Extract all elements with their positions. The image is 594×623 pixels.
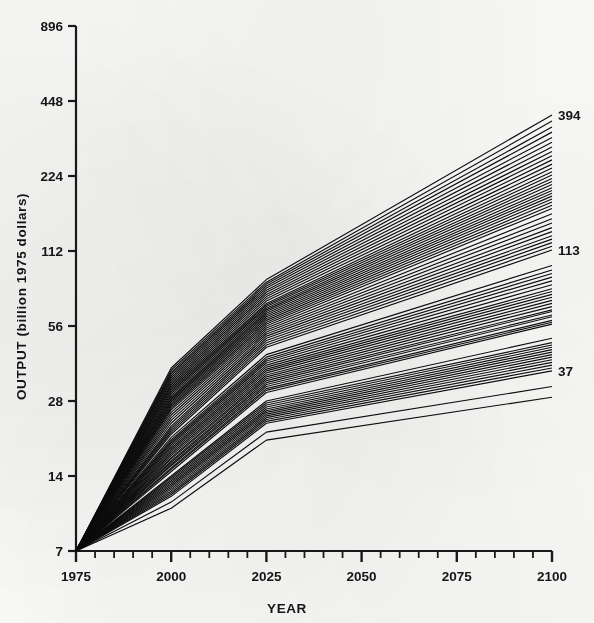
y-tick-label: 896 <box>40 19 63 34</box>
y-axis-ticks: 7142856112224448896 <box>40 19 76 559</box>
x-axis-ticks: 197520002025205020752100 <box>61 551 567 584</box>
y-tick-label: 56 <box>48 319 64 334</box>
x-tick-label: 2000 <box>156 569 186 584</box>
x-tick-label: 2075 <box>442 569 473 584</box>
y-tick-label: 28 <box>48 394 64 409</box>
endpoint-annotations: 39411337 <box>558 108 581 379</box>
y-tick-label: 7 <box>55 544 63 559</box>
x-tick-label: 2050 <box>347 569 377 584</box>
x-tick-label: 1975 <box>61 569 92 584</box>
y-tick-label: 112 <box>41 244 63 259</box>
endpoint-label: 113 <box>558 243 580 258</box>
endpoint-label: 37 <box>558 364 573 379</box>
endpoint-label: 394 <box>558 108 581 123</box>
y-tick-label: 448 <box>40 94 63 109</box>
series-line <box>76 357 552 551</box>
y-tick-label: 224 <box>40 169 63 184</box>
x-tick-label: 2100 <box>537 569 567 584</box>
x-tick-label: 2025 <box>251 569 282 584</box>
chart-figure: 7142856112224448896197520002025205020752… <box>0 0 594 623</box>
series-lines <box>76 115 552 551</box>
y-tick-label: 14 <box>48 469 64 484</box>
chart-svg: 7142856112224448896197520002025205020752… <box>0 0 594 623</box>
